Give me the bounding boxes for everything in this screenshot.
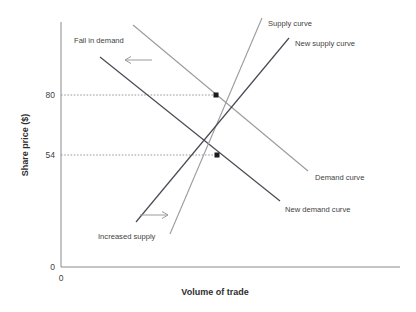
x-axis-title: Volume of trade [181, 287, 248, 297]
equilibrium-point-80 [214, 93, 219, 98]
fall-in-demand-arrow [125, 57, 152, 64]
label-new-demand-curve: New demand curve [285, 205, 350, 214]
y-axis-title: Share price ($) [20, 114, 30, 177]
y-tick-label-80: 80 [46, 90, 56, 100]
curve-new-supply [136, 38, 289, 222]
label-increased-supply: Increased supply [98, 232, 156, 241]
x-tick-label-0: 0 [59, 273, 64, 283]
chart-canvas: 80 54 0 0 Supply curve New supply curve … [0, 0, 416, 312]
label-demand-curve: Demand curve [315, 173, 364, 182]
supply-demand-chart: 80 54 0 0 Supply curve New supply curve … [0, 0, 416, 312]
equilibrium-point-54 [215, 153, 220, 158]
label-new-supply-curve: New supply curve [295, 39, 355, 48]
curve-new-demand [100, 57, 280, 201]
y-tick-label-54: 54 [46, 150, 56, 160]
label-fall-in-demand: Fall in demand [74, 36, 124, 45]
y-tick-label-0: 0 [50, 262, 55, 272]
label-supply-curve: Supply curve [268, 19, 312, 28]
